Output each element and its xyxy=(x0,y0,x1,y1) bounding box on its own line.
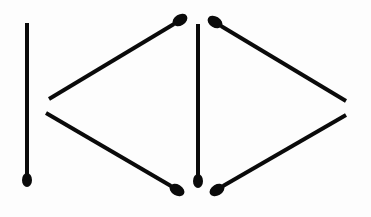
matchstick-head-icon xyxy=(193,174,203,188)
matchstick-right-lower-diagonal xyxy=(207,115,346,199)
matchstick-stick xyxy=(46,113,171,186)
matchstick-stick xyxy=(223,115,346,186)
matchstick-stick xyxy=(49,24,174,99)
matchstick-left-upper-diagonal xyxy=(49,11,190,99)
matchstick-right-upper-diagonal xyxy=(205,13,346,101)
matchstick-left-vertical xyxy=(22,23,32,187)
matchstick-diagram xyxy=(0,0,371,217)
matchstick-stick xyxy=(221,26,346,101)
matchstick-head-icon xyxy=(22,173,32,187)
matchstick-left-lower-diagonal xyxy=(46,113,187,199)
matchstick-svg xyxy=(0,0,371,217)
matchstick-middle-vertical xyxy=(193,24,203,188)
